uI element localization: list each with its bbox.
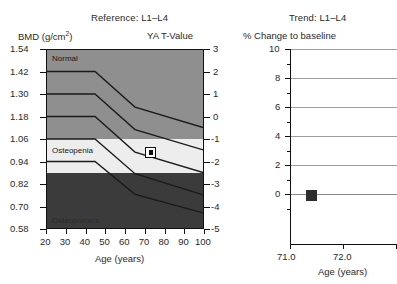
- ref-ytick-6: [40, 184, 46, 185]
- trend-ytick-label-0: 10: [269, 43, 280, 54]
- ref-ttick-label-6: -3: [211, 178, 219, 189]
- trend-ytick-minor-9: [287, 64, 291, 65]
- trend-ytick-minor-3: [287, 151, 291, 152]
- ref-xtick-6: [165, 229, 166, 234]
- reference-y-axis-label: BMD (g/cm2): [18, 30, 72, 42]
- ref-xtick-label-5: 70: [139, 236, 150, 247]
- trend-ytick-label-3: 4: [275, 130, 280, 141]
- ref-xtick-label-4: 60: [119, 236, 130, 247]
- ref-xtick-label-7: 90: [178, 236, 189, 247]
- ref-ttick-3: [204, 117, 210, 118]
- ref-xtick-label-0: 20: [40, 236, 51, 247]
- ref-ytick-label-3: 1.18: [10, 111, 29, 122]
- trend-xtick-label-0: 71.0: [277, 251, 296, 262]
- ref-ytick-label-2: 1.30: [10, 88, 29, 99]
- ref-ytick-2: [40, 94, 46, 95]
- trend-gridline-8: [290, 78, 397, 79]
- trend-gridline-2: [290, 165, 397, 166]
- ref-ytick-0: [40, 49, 46, 50]
- ref-ytick-7: [40, 207, 46, 208]
- ref-xtick-3: [105, 229, 106, 234]
- ref-ytick-label-5: 0.94: [10, 156, 29, 167]
- trend-ytick-minor-1: [287, 180, 291, 181]
- ref-ttick-label-0: 3: [213, 43, 218, 54]
- trend-y-axis-line: [290, 49, 291, 244]
- trend-ytick-label-4: 2: [275, 159, 280, 170]
- ref-ttick-label-2: 1: [213, 88, 218, 99]
- ref-ytick-label-6: 0.82: [10, 178, 29, 189]
- trend-ytick-label-1: 8: [275, 72, 280, 83]
- ref-ytick-label-8: 0.58: [10, 223, 29, 234]
- trend-ytick-minor-7: [287, 93, 291, 94]
- ref-ttick-7: [204, 207, 210, 208]
- trend-ytick-label-2: 6: [275, 101, 280, 112]
- ref-ttick-label-3: 0: [213, 111, 218, 122]
- dxa-report-charts: Reference: L1–L4 BMD (g/cm2) YA T-Value …: [0, 0, 397, 284]
- ref-ttick-1: [204, 72, 210, 73]
- trend-gridline-10: [290, 49, 397, 50]
- zone-label-normal: Normal: [52, 54, 78, 63]
- trend-ytick-6: [285, 107, 290, 108]
- ref-ytick-label-1: 1.42: [10, 66, 29, 77]
- trend-xtick-minor: [343, 244, 344, 249]
- ref-xtick-4: [125, 229, 126, 234]
- trend-ytick-4: [285, 136, 290, 137]
- reference-secondary-axis-label: YA T-Value: [147, 30, 193, 41]
- ref-xtick-label-6: 80: [159, 236, 170, 247]
- zone-label-osteoporosis: Osteoporosis: [52, 216, 99, 225]
- ref-xtick-7: [184, 229, 185, 234]
- ref-ttick-label-5: -2: [211, 156, 219, 167]
- ref-ytick-label-4: 1.06: [10, 133, 29, 144]
- zone-label-osteopenia: Osteopenia: [52, 146, 93, 155]
- ref-xtick-1: [66, 229, 67, 234]
- trend-ytick-0: [285, 194, 290, 195]
- ref-ttick-4: [204, 139, 210, 140]
- ref-ttick-0: [204, 49, 210, 50]
- ref-ytick-label-7: 0.70: [10, 201, 29, 212]
- trend-y-axis-label: % Change to baseline: [243, 30, 336, 41]
- reference-curves: [46, 49, 204, 229]
- ref-xtick-0: [46, 229, 47, 234]
- trend-x-axis-label: Age (years): [318, 266, 367, 277]
- trend-chart-title: Trend: L1–L4: [289, 12, 346, 23]
- ref-ytick-1: [40, 72, 46, 73]
- ref-ttick-label-8: -5: [211, 223, 219, 234]
- trend-gridline-6: [290, 107, 397, 108]
- reference-y-axis-label-tail: ): [69, 31, 72, 42]
- ref-ttick-label-4: -1: [211, 133, 219, 144]
- trend-gridline-4: [290, 136, 397, 137]
- trend-plot-area: [290, 49, 397, 229]
- ref-xtick-5: [145, 229, 146, 234]
- trend-ytick-label-5: 0: [275, 188, 280, 199]
- reference-y-axis-label-main: BMD (g/cm: [18, 31, 66, 42]
- trend-measurement-marker[interactable]: [306, 190, 317, 201]
- ref-ttick-label-1: 2: [213, 66, 218, 77]
- ref-xtick-label-8: 100: [195, 236, 211, 247]
- ref-ytick-4: [40, 139, 46, 140]
- trend-ytick-10: [285, 49, 290, 50]
- trend-xtick-label-1: 72.0: [333, 251, 352, 262]
- trend-ytick-2: [285, 165, 290, 166]
- ref-xtick-label-1: 30: [60, 236, 71, 247]
- ref-ytick-3: [40, 117, 46, 118]
- ref-xtick-label-2: 40: [80, 236, 91, 247]
- bmd-measurement-marker[interactable]: [145, 147, 156, 158]
- ref-ytick-label-0: 1.54: [10, 43, 29, 54]
- reference-plot-area: Normal Osteopenia Osteoporosis: [46, 49, 204, 229]
- ref-xtick-8: [204, 229, 205, 234]
- ref-xtick-2: [86, 229, 87, 234]
- trend-ytick-minor-neg1: [287, 209, 291, 210]
- reference-chart-title: Reference: L1–L4: [91, 12, 168, 23]
- ref-ttick-5: [204, 162, 210, 163]
- ref-ttick-2: [204, 94, 210, 95]
- ref-ttick-label-7: -4: [211, 201, 219, 212]
- ref-ttick-6: [204, 184, 210, 185]
- trend-ytick-8: [285, 78, 290, 79]
- trend-xtick-0: [290, 244, 291, 249]
- reference-x-axis-label: Age (years): [95, 253, 144, 264]
- ref-xtick-label-3: 50: [99, 236, 110, 247]
- trend-ytick-minor-5: [287, 122, 291, 123]
- ref-ytick-5: [40, 162, 46, 163]
